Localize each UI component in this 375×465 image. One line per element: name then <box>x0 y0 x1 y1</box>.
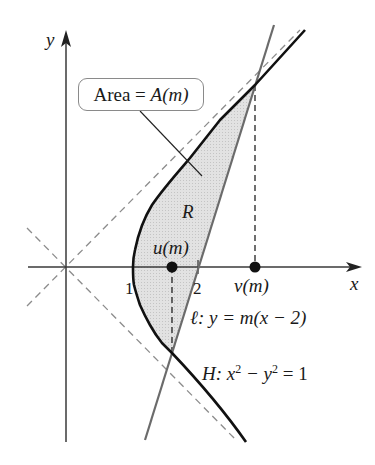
hyperbola-eq-part-a: : x <box>216 363 236 384</box>
region-label-r: R <box>182 202 194 221</box>
u-arg: (m) <box>163 237 189 258</box>
line-l-equation: : y = m(x − 2) <box>198 307 306 328</box>
hyperbola-h-label: H: x2 − y2 = 1 <box>202 364 308 383</box>
v-arg: (m) <box>242 275 268 296</box>
area-label-box: Area = A(m) <box>78 78 204 111</box>
point-v <box>250 262 261 273</box>
area-leader-line <box>140 111 202 176</box>
line-l-name: ℓ <box>190 307 198 328</box>
asymptote-y-equals-minus-x <box>27 228 236 440</box>
area-func: A <box>151 84 163 106</box>
x-axis-label: x <box>350 274 358 293</box>
area-prefix: Area = <box>93 84 150 106</box>
u-point-label: u(m) <box>153 238 189 257</box>
hyperbola-eq-part-c: = 1 <box>278 363 308 384</box>
area-arg: (m) <box>162 84 188 106</box>
point-u <box>167 262 178 273</box>
hyperbola-h-name: H <box>202 363 216 384</box>
tick-label-2: 2 <box>193 280 202 297</box>
u-func: u <box>153 237 163 258</box>
diagram-canvas <box>0 0 375 465</box>
tick-label-1: 1 <box>125 280 134 297</box>
v-point-label: v(m) <box>234 276 269 295</box>
y-axis-label: y <box>46 30 54 49</box>
hyperbola-eq-part-b: − y <box>241 363 272 384</box>
line-l-label: ℓ: y = m(x − 2) <box>190 308 306 327</box>
